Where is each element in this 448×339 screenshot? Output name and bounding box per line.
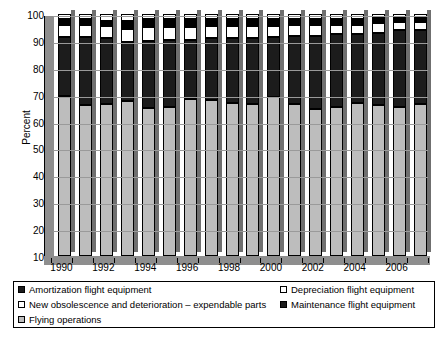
- bar-side-face: [71, 10, 75, 252]
- bar-segment: [309, 36, 322, 110]
- bar-segment: [288, 25, 301, 36]
- bar-segment: [79, 105, 92, 256]
- bar-side-face: [343, 10, 347, 252]
- legend-item[interactable]: Maintenance flight equipment: [276, 297, 435, 312]
- bar-segment: [393, 18, 406, 22]
- bar-segment: [309, 109, 322, 256]
- bar-segment: [330, 107, 343, 256]
- bar: [393, 14, 406, 256]
- legend-item[interactable]: Amortization flight equipment: [14, 282, 276, 297]
- x-tick-label: 1994: [125, 262, 165, 274]
- bar-segment: [351, 25, 364, 34]
- bar-segment: [414, 18, 427, 22]
- bar-segment: [79, 19, 92, 24]
- x-tick-label: 2002: [293, 262, 333, 274]
- gridline: [53, 43, 428, 44]
- bar-segment: [393, 22, 406, 30]
- y-tick-label: 30: [33, 199, 44, 209]
- plot-wrapper: Percent 100908070605040302010 1990199219…: [0, 0, 448, 272]
- gridline: [53, 97, 428, 98]
- bar-side-face: [364, 10, 368, 252]
- bar-segment: [121, 29, 134, 42]
- gridline: [53, 124, 428, 125]
- bar: [184, 14, 197, 256]
- bar-side-face: [239, 10, 243, 252]
- bar-segment: [351, 19, 364, 24]
- gridline: [53, 150, 428, 151]
- bar-segment: [351, 103, 364, 256]
- bar-segment: [121, 14, 134, 21]
- y-tick-label: 100: [27, 11, 44, 21]
- gridline: [53, 231, 428, 232]
- bar-segment: [330, 25, 343, 34]
- bar-segment: [184, 19, 197, 27]
- bar-segment: [163, 19, 176, 27]
- bar-side-face: [176, 10, 180, 252]
- bar-side-face: [197, 10, 201, 252]
- legend-column-right: Depreciation flight equipmentMaintenance…: [276, 282, 435, 312]
- legend-item-label: Maintenance flight equipment: [291, 299, 415, 310]
- bar: [58, 14, 71, 256]
- legend-item-label: Flying operations: [29, 314, 101, 325]
- gridline: [53, 16, 428, 17]
- bar-segment: [267, 26, 280, 37]
- legend-item-label: Amortization flight equipment: [29, 284, 152, 295]
- bar: [226, 14, 239, 256]
- bar: [246, 14, 259, 256]
- bar-segment: [330, 19, 343, 24]
- legend-item[interactable]: Depreciation flight equipment: [276, 282, 435, 297]
- bar-series-container: [53, 16, 428, 256]
- bar-segment: [393, 30, 406, 107]
- bar-side-face: [427, 10, 431, 252]
- bar-segment: [267, 37, 280, 98]
- x-tick-label: 2004: [335, 262, 375, 274]
- gridline: [53, 177, 428, 178]
- bar-segment: [142, 19, 155, 27]
- y-tick-label: 70: [33, 92, 44, 102]
- bar-segment: [79, 25, 92, 37]
- bar-side-face: [259, 10, 263, 252]
- bar-segment: [121, 101, 134, 256]
- y-tick-label: 60: [33, 119, 44, 129]
- bar: [414, 14, 427, 256]
- bar-side-face: [92, 10, 96, 252]
- gridline: [53, 204, 428, 205]
- bar: [309, 14, 322, 256]
- legend-swatch-icon: [280, 286, 287, 293]
- legend-item-label: New obsolescence and deterioration – exp…: [29, 299, 266, 310]
- chart-legend: Amortization flight equipmentNew obsoles…: [13, 281, 435, 328]
- plot-area: [51, 16, 428, 258]
- legend-item[interactable]: New obsolescence and deterioration – exp…: [14, 297, 276, 312]
- bar-side-face: [385, 10, 389, 252]
- bar-segment: [58, 37, 71, 96]
- legend-swatch-icon: [280, 301, 287, 308]
- gridline: [53, 70, 428, 71]
- bar-segment: [142, 108, 155, 256]
- x-tick-label: 1998: [209, 262, 249, 274]
- bar: [267, 14, 280, 256]
- bar-segment: [142, 41, 155, 108]
- bar-segment: [205, 19, 218, 26]
- bar-segment: [414, 30, 427, 104]
- legend-item-label: Depreciation flight equipment: [291, 284, 414, 295]
- bar-segment: [288, 19, 301, 24]
- y-tick-label: 90: [33, 38, 44, 48]
- bar: [372, 14, 385, 256]
- bar-side-face: [322, 10, 326, 252]
- bar: [288, 14, 301, 256]
- x-tick-label: 1990: [41, 262, 81, 274]
- bar-side-face: [113, 10, 117, 252]
- y-tick-label: 80: [33, 65, 44, 75]
- bar-side-face: [134, 10, 138, 252]
- bar-segment: [142, 27, 155, 40]
- bar-side-face: [218, 10, 222, 252]
- legend-swatch-icon: [18, 316, 25, 323]
- bar-segment: [414, 104, 427, 256]
- bar: [142, 14, 155, 256]
- y-tick-label: 40: [33, 172, 44, 182]
- y-tick-label: 20: [33, 226, 44, 236]
- bar-segment: [372, 23, 385, 32]
- bar-segment: [246, 19, 259, 26]
- bar-segment: [100, 21, 113, 26]
- legend-item[interactable]: Flying operations: [14, 312, 276, 327]
